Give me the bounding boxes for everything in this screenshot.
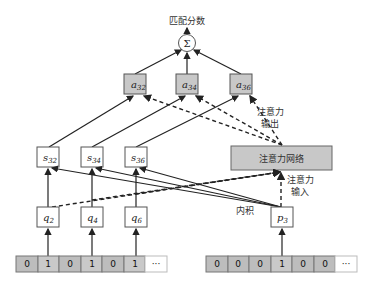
attention-output-label-1: 注意力: [257, 106, 284, 117]
svg-text:1: 1: [45, 259, 51, 269]
a-node-36: a36: [230, 74, 252, 94]
attention-network-box: 注意力网络: [231, 146, 332, 170]
svg-text:···: ···: [152, 259, 161, 269]
s-node-32: s32: [37, 147, 59, 167]
svg-text:0: 0: [257, 259, 263, 269]
svg-text:···: ···: [342, 259, 351, 269]
left-one-hot-vector: 0 1 0 1 0 1 ···: [16, 256, 167, 272]
right-one-hot-vector: 0 0 0 1 0 0 ···: [206, 256, 357, 272]
svg-text:0: 0: [322, 259, 328, 269]
attention-output-label-2: 输出: [261, 118, 279, 129]
s-node-34: s34: [81, 147, 103, 167]
a-node-34: a34: [176, 74, 198, 94]
sum-node: Σ: [179, 35, 196, 52]
svg-text:注意力网络: 注意力网络: [259, 153, 304, 164]
svg-text:1: 1: [89, 259, 95, 269]
match-score-title: 匹配分数: [169, 15, 205, 26]
svg-text:0: 0: [110, 259, 116, 269]
svg-text:0: 0: [24, 259, 30, 269]
svg-text:0: 0: [67, 259, 73, 269]
attention-input-label-1: 注意力: [287, 174, 314, 185]
attention-input-label-2: 输入: [291, 186, 309, 197]
svg-text:0: 0: [214, 259, 220, 269]
svg-text:1: 1: [132, 259, 138, 269]
q-node-2: q2: [37, 207, 59, 227]
inner-product-label: 内积: [236, 205, 254, 216]
svg-text:0: 0: [300, 259, 306, 269]
s-node-36: s36: [125, 147, 147, 167]
svg-text:0: 0: [235, 259, 241, 269]
q-node-6: q6: [125, 207, 147, 227]
diagram-canvas: 匹配分数 Σ a32 a34 a36 注意力 输出 注意力网络 s32: [0, 0, 371, 288]
q-node-4: q4: [81, 207, 103, 227]
a-node-32: a32: [124, 74, 146, 94]
sigma-icon: Σ: [183, 38, 190, 49]
svg-text:1: 1: [279, 259, 285, 269]
p-node-3: p3: [271, 207, 293, 227]
